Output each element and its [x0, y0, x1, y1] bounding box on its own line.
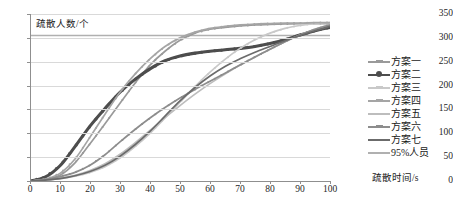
x-tick-label-10: 10 [48, 184, 72, 194]
legend-label-4: 方案四 [390, 95, 421, 106]
legend-marker-icon-6 [368, 121, 390, 132]
y-tick-350 [27, 14, 30, 15]
gridline-y-300 [30, 38, 330, 39]
plot-area [30, 14, 330, 181]
x-tick-label-70: 70 [228, 184, 252, 194]
x-tick-label-0: 0 [18, 184, 42, 194]
legend-marker-icon-7 [368, 134, 390, 145]
gridline-y-100 [30, 133, 330, 134]
x-axis-title: 疏散时间/s [372, 170, 418, 184]
y-tick-250 [27, 62, 30, 63]
gridline-y-50 [30, 157, 330, 158]
legend-item-6[interactable]: 方案六 [368, 120, 453, 133]
legend-label-7: 方案七 [390, 134, 421, 145]
legend-item-5[interactable]: 方案五 [368, 107, 453, 120]
gridline-y-350 [30, 14, 330, 15]
x-tick-label-30: 30 [108, 184, 132, 194]
legend-label-8: 95%人员 [390, 147, 429, 158]
x-tick-label-40: 40 [138, 184, 162, 194]
legend-label-5: 方案五 [390, 108, 421, 119]
y-axis-line [30, 14, 31, 181]
legend-label-1: 方案一 [390, 56, 421, 67]
legend-marker-icon-2 [368, 69, 390, 80]
y-tick-200 [27, 86, 30, 87]
gridline-y-150 [30, 109, 330, 110]
y-tick-300 [27, 38, 30, 39]
legend-item-2[interactable]: 方案二 [368, 68, 453, 81]
y-tick-50 [27, 157, 30, 158]
x-tick-label-50: 50 [168, 184, 192, 194]
x-tick-label-100: 100 [318, 184, 342, 194]
x-tick-label-80: 80 [258, 184, 282, 194]
legend-label-6: 方案六 [390, 121, 421, 132]
legend-item-4[interactable]: 方案四 [368, 94, 453, 107]
y-tick-label-0: 0 [427, 176, 453, 185]
legend-marker-icon-8 [368, 147, 390, 158]
legend-marker-icon-4 [368, 95, 390, 106]
x-tick-label-20: 20 [78, 184, 102, 194]
y-tick-100 [27, 133, 30, 134]
y-tick-label-350: 350 [427, 9, 453, 18]
legend-marker-icon-1 [368, 56, 390, 67]
legend-item-8[interactable]: 95%人员 [368, 146, 453, 159]
legend: 方案一方案二方案三方案四方案五方案六方案七95%人员 [368, 55, 453, 159]
legend-label-3: 方案三 [390, 82, 421, 93]
legend-item-7[interactable]: 方案七 [368, 133, 453, 146]
legend-marker-icon-5 [368, 108, 390, 119]
gridlines [30, 14, 330, 181]
evacuation-line-chart: 050100150200250300350 010203040506070809… [0, 0, 453, 213]
y-tick-label-300: 300 [427, 33, 453, 42]
legend-item-3[interactable]: 方案三 [368, 81, 453, 94]
y-tick-150 [27, 109, 30, 110]
legend-item-1[interactable]: 方案一 [368, 55, 453, 68]
figure-caption [0, 203, 453, 213]
x-tick-label-60: 60 [198, 184, 222, 194]
legend-label-2: 方案二 [390, 69, 421, 80]
gridline-y-250 [30, 62, 330, 63]
legend-marker-icon-3 [368, 82, 390, 93]
x-tick-label-90: 90 [288, 184, 312, 194]
y-axis-title: 疏散人数/个 [36, 16, 89, 30]
gridline-y-200 [30, 86, 330, 87]
